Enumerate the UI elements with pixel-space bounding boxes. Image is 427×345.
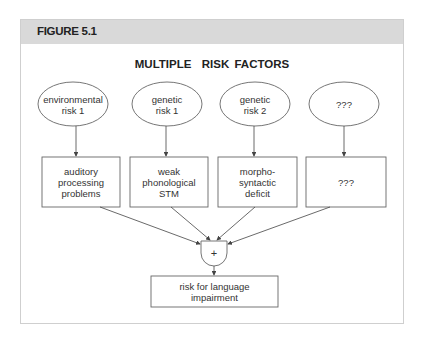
outcome-label: risk for language impairment [151,276,278,307]
combiner-symbol: + [201,241,227,265]
deficit-label-2: weak phonological STM [130,157,208,207]
cause-label-4: ??? [309,83,379,126]
deficit-label-4: ??? [306,157,386,207]
cause-label-1: environmental risk 1 [38,83,108,126]
cause-label-2: genetic risk 1 [132,83,202,126]
deficit-label-1: auditory processing problems [42,157,120,207]
cause-label-3: genetic risk 2 [220,83,290,126]
deficit-label-3: morpho- syntactic deficit [218,157,297,207]
